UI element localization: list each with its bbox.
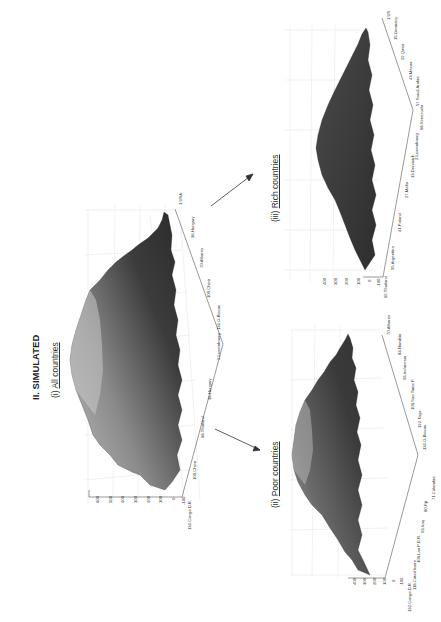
section-title: II. SIMULATED bbox=[30, 335, 41, 400]
ztick: 200 bbox=[344, 278, 349, 285]
ztick: 200 bbox=[146, 496, 151, 503]
axis-tick: 69.Thailand bbox=[383, 276, 388, 298]
ztick: 400 bbox=[352, 578, 357, 585]
axis-tick: 1.USA bbox=[178, 193, 183, 205]
ztick: 200 bbox=[372, 578, 377, 585]
axis-tick: 93.Iraq bbox=[420, 520, 425, 533]
ztick: 500 bbox=[108, 496, 113, 503]
panel-rich-label: Rich countries bbox=[270, 154, 280, 208]
axis-tick: 43.Macao bbox=[408, 62, 413, 80]
axis-tick: 80.Fiji bbox=[423, 501, 428, 512]
axis-tick: 71.Colombia bbox=[431, 476, 436, 500]
axis-tick: 29.Qatar bbox=[400, 44, 405, 60]
axis-tick: 55.Argentina bbox=[390, 246, 395, 270]
axis-tick: 70.Albania bbox=[386, 315, 391, 335]
ztick: 100 bbox=[158, 496, 163, 503]
axis-tick: 106.Lao P.D.R. bbox=[416, 535, 421, 563]
ztick: 400 bbox=[120, 496, 125, 503]
axis-tick: 118.Cotad'Ivoire bbox=[412, 560, 417, 590]
axis-tick: 83.Namibia bbox=[397, 334, 402, 355]
axis-tick: 41.Poland bbox=[397, 213, 402, 232]
ztick: 0 bbox=[367, 280, 372, 282]
ztick: -100 bbox=[181, 497, 186, 505]
axis-tick: 100.China bbox=[192, 461, 197, 480]
axis-tick: 70.Albania bbox=[199, 248, 204, 268]
ztick: 300 bbox=[362, 578, 367, 585]
axis-tick: 68.Thailand bbox=[200, 416, 205, 438]
arrow-to-poor bbox=[215, 429, 260, 451]
ztick: 100 bbox=[382, 578, 387, 585]
ztick: 100 bbox=[356, 278, 361, 285]
axis-tick: 122.Togo bbox=[417, 411, 422, 428]
axis-tick: 132.Congo D.R. bbox=[187, 500, 192, 530]
panel-all-prefix: (i) bbox=[50, 389, 60, 398]
panel-all-title: (i) All countries bbox=[50, 342, 60, 398]
arrow-to-rich bbox=[211, 174, 253, 206]
panel-rich-prefix: (iii) bbox=[270, 208, 280, 222]
axis-tick: 36.Hungary bbox=[190, 216, 195, 238]
ztick: -100 bbox=[399, 578, 404, 586]
axis-tick: 100.China bbox=[206, 279, 211, 298]
panel-poor-prefix: (ii) bbox=[270, 496, 280, 508]
ztick: -100 bbox=[376, 279, 381, 287]
axis-tick: 106.Sao Tome P. bbox=[410, 378, 415, 410]
axis-tick: 57.Saudi Arabia bbox=[415, 76, 420, 106]
axis-tick: 2.Luxembourg bbox=[414, 133, 419, 160]
axis-tick: 131.G-Bissau bbox=[216, 305, 221, 330]
axis-tick: 15.Germany bbox=[393, 17, 398, 40]
panel-all-label: All countries bbox=[50, 342, 60, 388]
axis-tick: 27.Malta bbox=[404, 182, 409, 198]
panel-poor-title: (ii) Poor countries bbox=[270, 441, 280, 508]
ztick: 0 bbox=[171, 498, 176, 500]
panel-rich-title: (iii) Rich countries bbox=[270, 154, 280, 222]
axis-tick: 96.Indonesia bbox=[402, 356, 407, 380]
ztick: 400 bbox=[322, 278, 327, 285]
axis-tick: 1.US bbox=[386, 11, 391, 20]
rotated-figure-page: II. SIMULATED (i) All countries (ii) Poo… bbox=[0, 0, 441, 622]
panel-poor-label: Poor countries bbox=[270, 441, 280, 496]
axis-tick: 36.Hungary bbox=[207, 378, 212, 400]
axis-tick: 2.Luxembourg bbox=[216, 333, 221, 360]
ztick: 300 bbox=[333, 278, 338, 285]
axis-tick: 131.G-Bissau bbox=[422, 425, 427, 450]
ztick: 0 bbox=[391, 580, 396, 582]
axis-tick: 68.Venezuela bbox=[419, 105, 424, 130]
ztick: 300 bbox=[133, 496, 138, 503]
chart-rich-countries-surface bbox=[316, 28, 376, 270]
ztick: 600 bbox=[95, 496, 100, 503]
